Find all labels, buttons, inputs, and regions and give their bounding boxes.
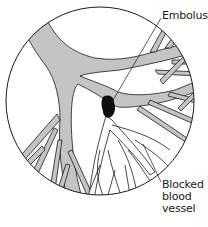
embolus-label: Embolus — [162, 10, 208, 22]
cropped-caption-fragment — [2, 216, 206, 227]
blocked-vessel-label-line3: vessel — [162, 203, 208, 215]
embolus-clot — [102, 96, 116, 118]
blocked-vessel-label: Blocked blood vessel — [162, 179, 208, 215]
